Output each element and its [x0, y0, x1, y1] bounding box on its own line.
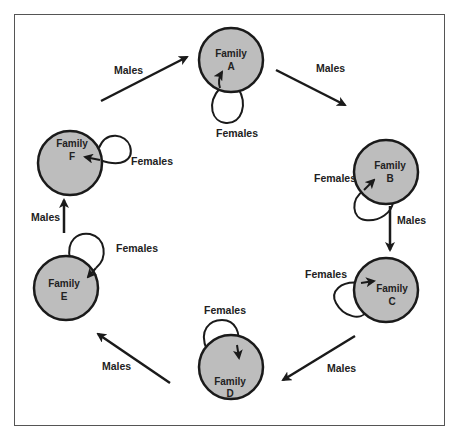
node-family-a: Family A Females	[199, 28, 263, 139]
edge-label: Males	[327, 362, 356, 374]
self-loop-label: Females	[314, 172, 356, 184]
node-family-e: Family E Females	[34, 234, 158, 320]
node-id: C	[388, 296, 395, 307]
node-label: Family	[376, 283, 408, 294]
node-label: Family	[215, 48, 247, 59]
edge-e-to-f: Males	[31, 200, 64, 233]
node-label: Family	[214, 376, 246, 387]
node-family-b: Family B Females	[314, 140, 418, 220]
self-loop-label: Females	[216, 127, 258, 139]
node-family-f: Family F Females	[38, 131, 173, 195]
edge-label: Males	[31, 211, 60, 223]
self-loop-label: Females	[131, 155, 173, 167]
node-family-c: Family C Females	[305, 258, 418, 322]
edge-d-to-e: Males	[98, 334, 170, 383]
node-label: Family	[56, 138, 88, 149]
edge-c-to-d: Males	[283, 336, 356, 380]
self-loop-label: Females	[204, 304, 246, 316]
family-circle	[354, 140, 418, 204]
family-circle	[199, 28, 263, 92]
node-id: F	[69, 151, 75, 162]
edge-label: Males	[102, 360, 131, 372]
edge-f-to-a: Males	[101, 57, 187, 101]
node-id: D	[226, 388, 233, 399]
migration-diagram: Males Males Males Males Males Males Fami…	[0, 0, 455, 435]
arrow-icon	[276, 70, 345, 105]
self-loop-label: Females	[305, 268, 347, 280]
self-loop-label: Females	[116, 242, 158, 254]
edge-b-to-c: Males	[390, 206, 426, 250]
node-label: Family	[48, 278, 80, 289]
edge-label: Males	[316, 62, 345, 74]
edge-label: Males	[397, 214, 426, 226]
node-id: B	[386, 173, 393, 184]
edge-a-to-b: Males	[276, 62, 345, 105]
node-family-d: Family D Females	[199, 304, 263, 399]
node-id: A	[227, 61, 234, 72]
node-id: E	[61, 291, 68, 302]
arrow-icon	[98, 334, 170, 383]
edge-label: Males	[114, 64, 143, 76]
node-label: Family	[374, 160, 406, 171]
